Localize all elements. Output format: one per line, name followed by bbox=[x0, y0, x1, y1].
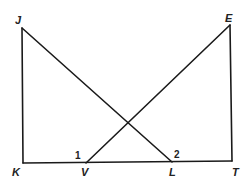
angle-label-2: 2 bbox=[174, 149, 180, 160]
point-label-j: J bbox=[15, 14, 22, 26]
point-label-e: E bbox=[225, 12, 233, 24]
point-label-t: T bbox=[232, 166, 240, 178]
geometry-diagram: J E K V L T 1 2 bbox=[0, 0, 249, 187]
angle-label-1: 1 bbox=[75, 150, 81, 161]
point-label-v: V bbox=[81, 166, 90, 178]
segment-kt bbox=[23, 161, 232, 163]
point-label-l: L bbox=[169, 166, 176, 178]
segment-jk bbox=[22, 28, 23, 163]
segment-et bbox=[230, 25, 232, 161]
segment-ev bbox=[86, 25, 230, 163]
point-label-k: K bbox=[12, 166, 21, 178]
segment-jl bbox=[22, 28, 172, 162]
